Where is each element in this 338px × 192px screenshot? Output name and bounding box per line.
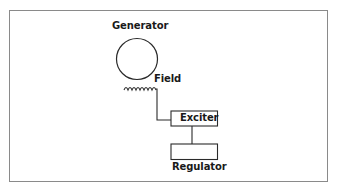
regulator-label: Regulator xyxy=(172,161,227,172)
generator-label: Generator xyxy=(112,20,168,31)
diagram-canvas xyxy=(0,0,338,192)
generator-circle xyxy=(117,39,158,80)
field-label: Field xyxy=(154,73,181,84)
exciter-label: Exciter xyxy=(180,112,218,123)
field-coil-icon xyxy=(124,88,156,91)
regulator-box xyxy=(171,144,218,160)
field-to-exciter-wire xyxy=(156,89,171,120)
